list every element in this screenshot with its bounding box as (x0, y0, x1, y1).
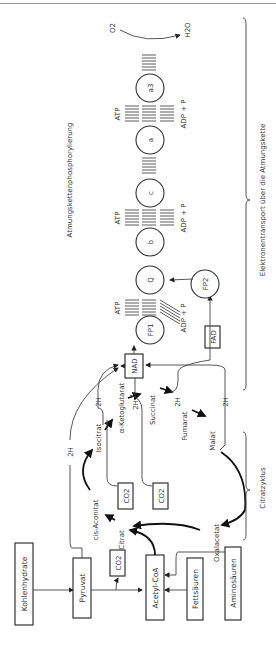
atp-label-1: ATP (114, 302, 122, 315)
aconitat-to-isocitrat-arrow (83, 450, 92, 490)
isocitrat-co2-line (107, 420, 117, 486)
adp-label-1: ADP + P (180, 304, 188, 333)
citrat-label: Citrat (118, 530, 126, 550)
fatty-acids-label: Fettsäuren (191, 569, 200, 609)
fad-box: FAD (205, 326, 220, 348)
oxalacetat-label: Oxalacetat (213, 524, 221, 562)
atp-label-2: ATP (114, 212, 122, 225)
nad-box: NAD (125, 354, 143, 378)
amino-acids-box: Aminosäuren (225, 547, 241, 620)
cis-aconitat-label: cis-Aconitat (92, 499, 100, 540)
oxalacetat-to-citrat-arrow (134, 524, 200, 530)
hatch-a-a3 (125, 106, 174, 121)
carrier-a3: a3 (136, 74, 164, 102)
h2-label-pyruvate: 2H (67, 447, 75, 457)
citric-cycle-label: Citratzyklus (259, 467, 267, 509)
pyruvate-co2-arrow (116, 578, 118, 590)
svg-text:c: c (147, 191, 155, 195)
h2-label-isocitrat: 2H (95, 397, 103, 407)
adp-label-3: ADP + P (180, 100, 188, 129)
pyruvate-label: Pyruvat (78, 574, 87, 603)
acetyl-coa-box: Acetyl-CoA (146, 555, 164, 620)
alpha-ketoglutarat-label: α-Ketoglutarat (118, 383, 126, 434)
svg-text:a: a (147, 138, 155, 142)
acetylcoa-to-citrat-arrow (130, 530, 155, 555)
malat-to-oxalacetat-arrow (221, 452, 245, 525)
pyruvate-2h-to-nad (70, 368, 118, 440)
citrat-to-aconitat-arrow (106, 515, 115, 520)
fatty-acids-box: Fettsäuren (187, 558, 203, 620)
svg-text:NAD: NAD (131, 358, 139, 373)
isocitrat-label: Isocitrat (95, 424, 103, 453)
atp-label-3: ATP (114, 108, 122, 121)
metabolism-diagram: Kohlenhydrate Pyruvat CO2 Acetyl-CoA Fet… (0, 0, 276, 651)
svg-text:a3: a3 (147, 84, 155, 93)
carrier-fp1: FP1 (136, 316, 164, 344)
isocitrat-to-ketoglutarat-arrow (105, 420, 112, 430)
carbohydrates-label: Kohlenhydrate (20, 556, 29, 611)
svg-text:b: b (147, 239, 155, 244)
svg-text:CO2: CO2 (158, 489, 166, 504)
carrier-fp2: FP2 (191, 270, 219, 298)
oxygen-label: O2 (109, 23, 117, 33)
h2-label-succinat: 2H (174, 397, 182, 407)
hatch-b-c (125, 210, 174, 225)
succinat-2h-line (170, 350, 210, 392)
carrier-q: Q (136, 266, 164, 294)
fp2-to-q-arrow (170, 279, 193, 280)
co2-box-pyruvate: CO2 (110, 550, 125, 576)
succinat-to-fumarat-arrow (160, 388, 172, 392)
svg-text:FAD: FAD (210, 330, 218, 344)
hatch-a3-o2 (142, 55, 156, 70)
isocitrat-2h-to-nad (98, 365, 118, 390)
oxygen-to-water-arrow (120, 30, 180, 39)
fumarat-label: Fumarat (181, 411, 189, 440)
succinat-label: Succinat (149, 395, 157, 425)
hatch-c-a (142, 158, 156, 173)
electron-transport-brace (243, 18, 250, 390)
carrier-a: a (136, 126, 164, 154)
h2-label-malat: 2H (222, 397, 230, 407)
acetyl-coa-label: Acetyl-CoA (151, 567, 160, 609)
phosphorylation-label: Atmungskettenphosphorylierung (66, 123, 74, 238)
electron-transport-label: Elektronentransport über die Atmungskett… (259, 124, 267, 277)
co2-box-ketoglutarat: CO2 (153, 483, 168, 509)
fumarat-to-malat-arrow (192, 410, 205, 416)
carbohydrates-box: Kohlenhydrate (15, 543, 33, 625)
carrier-b: b (136, 228, 164, 256)
water-label: H2O (184, 22, 192, 38)
adp-label-2: ADP + P (180, 204, 188, 233)
svg-text:FP2: FP2 (202, 278, 210, 291)
pyruvate-2h-line (70, 465, 82, 558)
carrier-c: c (136, 179, 164, 207)
amino-acids-label: Aminosäuren (229, 558, 238, 608)
h2-label-ketoglutarat: 2H (132, 400, 140, 410)
svg-text:Q: Q (147, 277, 155, 283)
malat-label: Malat (209, 431, 217, 451)
svg-text:CO2: CO2 (123, 489, 131, 504)
svg-text:FP1: FP1 (147, 324, 155, 337)
svg-text:CO2: CO2 (115, 556, 123, 571)
co2-box-isocitrat: CO2 (118, 483, 133, 509)
pyruvate-box: Pyruvat (73, 558, 91, 618)
